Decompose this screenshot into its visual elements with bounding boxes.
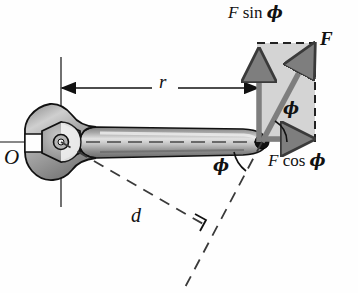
fcos-function: cos	[283, 151, 306, 170]
force-cos-component-label: F cos ϕ	[268, 152, 326, 169]
force-label: F	[320, 29, 333, 48]
fcos-symbol: F	[268, 151, 278, 170]
fsin-symbol: F	[228, 3, 238, 22]
fsin-function: sin	[243, 3, 263, 22]
moment-arm-label: d	[131, 205, 141, 225]
fsin-angle: ϕ	[267, 2, 283, 22]
fcos-angle: ϕ	[310, 150, 326, 170]
pivot-label: O	[4, 147, 19, 168]
figure-canvas: O r d F F sin ϕ F cos ϕ ϕ ϕ	[0, 0, 358, 293]
wrench-force-diagram	[0, 0, 358, 293]
force-sin-component-label: F sin ϕ	[228, 4, 283, 21]
angle-label-lower: ϕ	[213, 157, 229, 174]
radius-label: r	[159, 72, 166, 91]
angle-label-upper: ϕ	[283, 100, 299, 117]
